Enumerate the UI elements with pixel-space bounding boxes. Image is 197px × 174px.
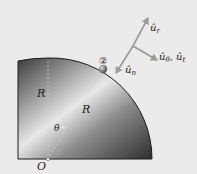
particle <box>99 65 107 73</box>
label-u-n: ûn <box>125 64 136 77</box>
label-origin: O <box>37 160 46 173</box>
u-theta-arrow <box>133 46 157 60</box>
label-point-2: ② <box>99 56 107 66</box>
label-R-radial: R <box>81 103 90 116</box>
label-u-r: ûr <box>150 22 160 35</box>
label-u-theta-u-t: ûθ, ût <box>159 51 185 64</box>
origin-point <box>46 157 49 160</box>
u-r-arrow <box>133 18 148 46</box>
label-theta: θ <box>54 123 60 133</box>
label-R-vertical: R <box>36 87 45 100</box>
quarter-disk-diagram: R R θ O ② ûr ûθ, ût ûn <box>0 0 197 174</box>
